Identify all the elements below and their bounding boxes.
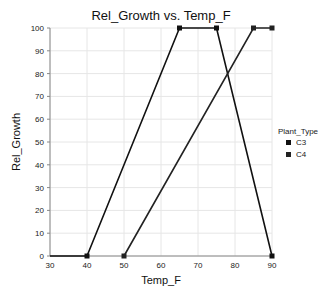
data-point-marker (270, 254, 275, 259)
y-tick-label: 50 (35, 138, 44, 147)
y-tick-label: 70 (35, 92, 44, 101)
y-tick-label: 0 (40, 252, 45, 261)
x-tick-label: 30 (46, 261, 55, 270)
line-chart: 010203040506070809010030405060708090Rel_… (0, 0, 336, 294)
y-tick-label: 80 (35, 70, 44, 79)
y-tick-label: 10 (35, 229, 44, 238)
x-tick-label: 70 (194, 261, 203, 270)
y-tick-label: 100 (31, 24, 45, 33)
x-tick-label: 40 (83, 261, 92, 270)
y-tick-label: 40 (35, 161, 44, 170)
legend-item-c4: C4 (296, 150, 307, 159)
chart-title: Rel_Growth vs. Temp_F (91, 8, 230, 23)
y-tick-label: 20 (35, 206, 44, 215)
y-axis-label: Rel_Growth (10, 113, 22, 171)
data-point-marker (122, 254, 127, 259)
data-point-marker (85, 254, 90, 259)
x-tick-label: 60 (157, 261, 166, 270)
x-tick-label: 90 (268, 261, 277, 270)
legend-marker-icon (286, 140, 291, 145)
legend-title: Plant_Type (278, 127, 319, 136)
x-tick-label: 80 (231, 261, 240, 270)
data-point-marker (270, 26, 275, 31)
legend-marker-icon (286, 152, 291, 157)
x-axis-label: Temp_F (141, 274, 181, 286)
y-tick-label: 60 (35, 115, 44, 124)
x-tick-label: 50 (120, 261, 129, 270)
data-point-marker (251, 26, 256, 31)
y-tick-label: 90 (35, 47, 44, 56)
legend-item-c3: C3 (296, 138, 307, 147)
data-point-marker (177, 26, 182, 31)
y-tick-label: 30 (35, 184, 44, 193)
data-point-marker (214, 26, 219, 31)
